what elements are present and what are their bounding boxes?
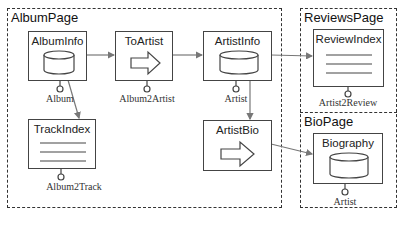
node-to-artist-label: ToArtist (116, 35, 172, 47)
node-track-index-label: TrackIndex (29, 123, 95, 135)
node-track-index[interactable]: TrackIndex (28, 119, 96, 169)
database-icon (42, 50, 76, 76)
node-to-artist[interactable]: ToArtist (115, 31, 173, 81)
port-biography-artist: Artist (334, 196, 357, 207)
list-icon (40, 140, 86, 164)
port-artist2review: Artist2Review (319, 97, 377, 108)
arrow-right-icon (220, 140, 256, 168)
port-album: Album (46, 93, 74, 104)
node-biography-label: Biography (314, 137, 382, 149)
database-icon (328, 152, 370, 180)
node-biography[interactable]: Biography (313, 133, 383, 184)
node-review-index[interactable]: ReviewIndex (313, 29, 384, 87)
arrow-right-icon (130, 50, 162, 76)
list-icon (326, 52, 372, 78)
node-review-index-label: ReviewIndex (314, 33, 383, 45)
port-album2artist: Album2Artist (119, 93, 175, 104)
node-album-info-label: AlbumInfo (29, 35, 86, 47)
database-icon (218, 50, 260, 76)
node-album-info[interactable]: AlbumInfo (28, 31, 87, 81)
port-album2track: Album2Track (46, 181, 102, 192)
node-artist-info[interactable]: ArtistInfo (203, 31, 272, 81)
port-artist: Artist (225, 93, 248, 104)
node-artist-bio-label: ArtistBio (204, 124, 271, 136)
node-artist-info-label: ArtistInfo (204, 35, 271, 47)
node-artist-bio[interactable]: ArtistBio (203, 120, 272, 171)
